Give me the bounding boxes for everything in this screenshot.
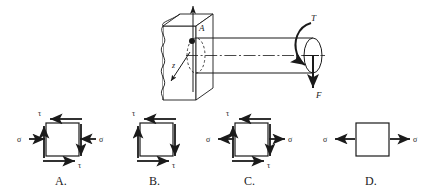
force-label: F [315,90,322,100]
figure-canvas: A z T F τ τ σ σ A. [0,0,429,195]
option-c-left-sigma-label: σ [206,135,211,144]
point-a-label: A [198,23,205,33]
option-d-square [356,123,389,156]
option-d-left-sigma-label: σ [323,135,328,144]
option-b-square [140,123,173,156]
option-d-right-sigma-label: σ [413,135,418,144]
option-a-label: A. [55,174,67,188]
option-a-square [46,123,79,156]
engineering-figure: A z T F τ τ σ σ A. [0,0,429,195]
option-c-right-sigma-label: σ [288,135,293,144]
point-a-marker [189,38,195,44]
option-b-label: B. [149,174,160,188]
option-c-square [235,123,268,156]
option-c-label: C. [244,174,255,188]
option-a-left-sigma-label: σ [17,135,22,144]
background [0,0,429,195]
option-a-right-sigma-label: σ [99,135,104,144]
option-d-label: D. [365,174,377,188]
